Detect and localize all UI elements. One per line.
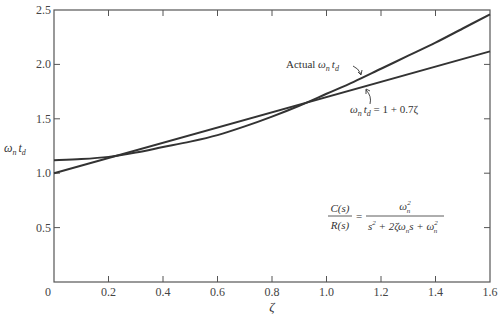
y-tick-labels: 0.51.01.52.02.5 bbox=[36, 3, 51, 235]
chart: 00.20.40.60.81.01.21.41.6 0.51.01.52.02.… bbox=[0, 0, 498, 316]
x-tick-label: 0.4 bbox=[156, 285, 171, 299]
axis-ticks bbox=[54, 10, 490, 282]
x-tick-label: 0 bbox=[45, 285, 51, 299]
x-tick-label: 0.8 bbox=[265, 285, 280, 299]
svg-text:C(s): C(s) bbox=[331, 202, 350, 215]
x-tick-labels: 00.20.40.60.81.01.21.41.6 bbox=[45, 285, 498, 299]
y-tick-label: 1.5 bbox=[36, 112, 51, 126]
x-axis-label: ζ bbox=[269, 299, 275, 314]
x-tick-label: 0.6 bbox=[210, 285, 225, 299]
transfer-function: C(s) R(s) = ω2n s2 + 2ζωns + ω2n bbox=[328, 199, 444, 235]
x-tick-label: 0.2 bbox=[101, 285, 116, 299]
y-tick-label: 0.5 bbox=[36, 221, 51, 235]
y-axis-label: ωntd bbox=[4, 141, 27, 157]
approx-line bbox=[54, 51, 490, 173]
y-tick-label: 2.0 bbox=[36, 57, 51, 71]
y-tick-label: 2.5 bbox=[36, 3, 51, 17]
svg-text:=: = bbox=[356, 210, 362, 222]
svg-text:R(s): R(s) bbox=[330, 219, 350, 232]
plot-frame bbox=[54, 10, 490, 282]
series-lines bbox=[54, 14, 490, 173]
annotation-actual: Actual ωntd bbox=[286, 58, 340, 73]
actual-curve bbox=[54, 14, 490, 160]
x-tick-label: 1.0 bbox=[319, 285, 334, 299]
y-tick-label: 1.0 bbox=[36, 166, 51, 180]
arrow-approx bbox=[366, 90, 371, 104]
x-tick-label: 1.4 bbox=[428, 285, 443, 299]
x-tick-label: 1.2 bbox=[374, 285, 389, 299]
svg-text:ω2n: ω2n bbox=[399, 199, 411, 215]
arrow-actual bbox=[353, 66, 361, 74]
svg-text:s2 + 2ζωns + ω2n: s2 + 2ζωns + ω2n bbox=[368, 219, 438, 235]
annotation-approx: ωntd = 1 + 0.7ζ bbox=[350, 103, 419, 118]
x-tick-label: 1.6 bbox=[483, 285, 498, 299]
